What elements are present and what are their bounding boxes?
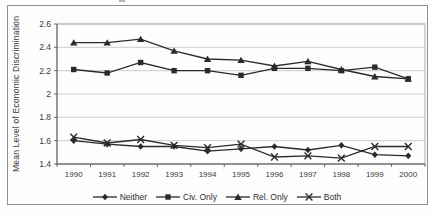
y-tick-label: 2.6 bbox=[39, 19, 51, 29]
y-tick-label: 1.4 bbox=[39, 159, 51, 169]
y-tick-label: 2.2 bbox=[39, 66, 51, 76]
square-marker bbox=[205, 68, 210, 73]
x-tick-label: 1992 bbox=[132, 170, 150, 179]
square-marker bbox=[138, 60, 143, 65]
x-tick-label: 1995 bbox=[232, 170, 250, 179]
x-tick-label: 1998 bbox=[332, 170, 350, 179]
line-chart: 1.41.61.822.22.42.6199019911992199319941… bbox=[0, 0, 434, 215]
square-marker bbox=[171, 68, 176, 73]
y-tick-label: 2.4 bbox=[39, 42, 51, 52]
square-marker bbox=[372, 64, 377, 69]
x-tick-label: 1991 bbox=[98, 170, 116, 179]
square-icon bbox=[156, 192, 180, 202]
legend-item-neither: Neither bbox=[93, 192, 147, 202]
triangle-icon bbox=[226, 192, 250, 202]
legend-label: Civ. Only bbox=[183, 192, 217, 202]
x-tick-label: 2000 bbox=[399, 170, 417, 179]
square-marker bbox=[71, 67, 76, 72]
legend: NeitherCiv. OnlyRel. OnlyBoth bbox=[0, 192, 434, 202]
square-marker bbox=[305, 66, 310, 71]
cross-icon bbox=[297, 192, 321, 202]
economic-discrimination-figure: Mean Level of Economic Discrimination 1.… bbox=[0, 0, 434, 215]
diamond-icon bbox=[93, 192, 117, 202]
x-tick-label: 1997 bbox=[299, 170, 317, 179]
x-tick-label: 1993 bbox=[165, 170, 183, 179]
y-tick-label: 2 bbox=[46, 89, 51, 99]
diamond-marker bbox=[102, 194, 108, 201]
y-tick-label: 1.8 bbox=[39, 112, 51, 122]
x-tick-label: 1999 bbox=[366, 170, 384, 179]
legend-label: Both bbox=[324, 192, 342, 202]
x-tick-label: 1996 bbox=[266, 170, 284, 179]
legend-item-civ-only: Civ. Only bbox=[156, 192, 217, 202]
x-tick-label: 1990 bbox=[65, 170, 83, 179]
square-marker bbox=[104, 70, 109, 75]
legend-item-rel-only: Rel. Only bbox=[226, 192, 288, 202]
square-marker bbox=[165, 194, 170, 199]
square-marker bbox=[238, 73, 243, 78]
x-tick-label: 1994 bbox=[199, 170, 217, 179]
legend-label: Rel. Only bbox=[253, 192, 288, 202]
y-tick-label: 1.6 bbox=[39, 136, 51, 146]
legend-label: Neither bbox=[120, 192, 147, 202]
legend-item-both: Both bbox=[297, 192, 342, 202]
